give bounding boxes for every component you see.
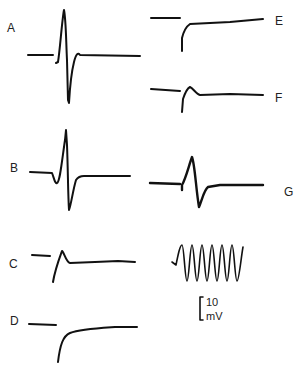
panel-label-d: D xyxy=(10,314,19,328)
scale-value: 10 xyxy=(206,296,218,308)
panel-d: D xyxy=(10,314,137,362)
electrophysiology-figure: A B C D E F G 10 mV xyxy=(0,0,296,374)
panel-label-c: C xyxy=(9,257,18,271)
trace-a xyxy=(28,10,140,103)
panel-g: G xyxy=(150,157,293,207)
panel-a: A xyxy=(7,10,140,103)
trace-d xyxy=(29,324,137,362)
sine-trace xyxy=(172,245,243,281)
panel-f: F xyxy=(151,87,282,112)
trace-e xyxy=(151,18,263,51)
scale-unit: mV xyxy=(206,310,223,322)
scale-bracket xyxy=(200,297,203,320)
panel-label-b: B xyxy=(10,161,18,175)
trace-g xyxy=(150,157,263,207)
panel-c: C xyxy=(9,251,135,282)
panel-label-f: F xyxy=(275,91,282,105)
panel-label-a: A xyxy=(7,21,15,35)
panel-e: E xyxy=(151,14,283,51)
trace-b xyxy=(30,130,130,210)
trace-c xyxy=(32,251,135,282)
panel-label-g: G xyxy=(284,185,293,199)
panel-b: B xyxy=(10,130,130,210)
trace-f xyxy=(151,87,263,112)
panel-label-e: E xyxy=(275,14,283,28)
calibration-sine-wave xyxy=(172,245,243,281)
scale-bar: 10 mV xyxy=(200,296,223,322)
